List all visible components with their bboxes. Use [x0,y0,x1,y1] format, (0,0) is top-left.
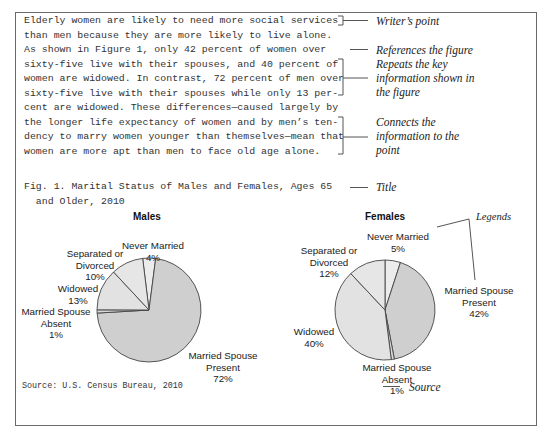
label-females-separated: Separated or Divorced 12% [294,245,364,280]
label-females-married-absent: Married Spouse Absent 1% [352,362,442,397]
label-males-married-absent: Married Spouse Absent 1% [16,306,96,341]
label-females-widowed: Widowed 40% [284,326,344,349]
pie-title-females: Females [365,211,405,222]
label-females-never-married: Never Married 5% [358,231,438,254]
figure-graphics [0,0,556,442]
label-males-married-present: Married Spouse Present 72% [178,350,268,385]
label-males-separated: Separated or Divorced 10% [60,248,130,283]
label-males-widowed: Widowed 13% [48,283,108,306]
figure-source: Source: U.S. Census Bureau, 2010 [22,381,183,391]
label-females-married-present: Married Spouse Present 42% [434,285,524,320]
pie-title-males: Males [133,211,161,222]
